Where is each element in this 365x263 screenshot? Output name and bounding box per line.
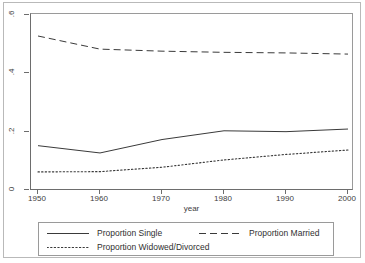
y-tick-label: 0 (7, 179, 17, 199)
series-line-0 (38, 129, 348, 153)
y-tick-mark (24, 131, 29, 132)
y-tick-label: .6 (7, 4, 17, 24)
figure-frame: 0.2.4.6 195019601970198019902000 year Pr… (3, 2, 361, 258)
y-tick-0: 0 (4, 189, 28, 190)
chart-screenshot: 0.2.4.6 195019601970198019902000 year Pr… (0, 0, 365, 263)
y-tick-mark (24, 14, 29, 15)
y-tick-3: .6 (4, 14, 28, 15)
y-tick-mark (24, 189, 29, 190)
x-tick-label: 1990 (271, 194, 299, 203)
chart-legend: Proportion Single Proportion Married Pro… (38, 222, 334, 256)
x-tick-label: 1980 (209, 194, 237, 203)
legend-label-widowed-divorced: Proportion Widowed/Divorced (97, 240, 209, 254)
legend-label-married: Proportion Married (249, 226, 319, 240)
x-tick-label: 1960 (85, 194, 113, 203)
x-tick-label: 1970 (147, 194, 175, 203)
y-tick-2: .4 (4, 72, 28, 73)
series-line-2 (38, 150, 348, 172)
x-tick-label: 1950 (23, 194, 51, 203)
y-tick-label: .4 (7, 62, 17, 82)
line-chart-canvas (31, 14, 354, 191)
y-tick-mark (24, 72, 29, 73)
y-tick-1: .2 (4, 131, 28, 132)
series-line-1 (38, 36, 348, 54)
x-tick-label: 2000 (333, 194, 361, 203)
legend-key-widowed-divorced (47, 246, 89, 248)
y-tick-label: .2 (7, 121, 17, 141)
legend-label-single: Proportion Single (97, 226, 162, 240)
legend-key-married (199, 232, 241, 234)
legend-key-single (47, 232, 89, 234)
x-axis-title: year (30, 204, 353, 213)
plot-area (30, 13, 353, 190)
